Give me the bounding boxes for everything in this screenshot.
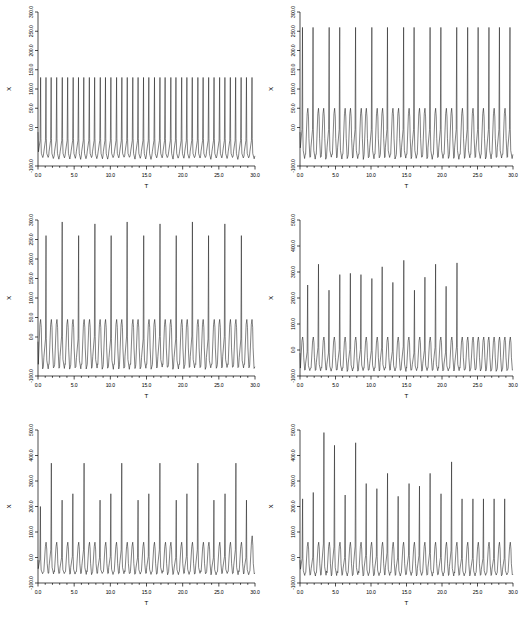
x-tick-label: 0.0: [297, 589, 304, 595]
series-line: [300, 260, 513, 371]
y-tick-label: 200.0: [28, 500, 34, 512]
y-tick-label: 100.0: [28, 526, 34, 538]
panel-middle-right: -100.00.0100.0200.0300.0400.0500.00.05.0…: [262, 208, 523, 418]
y-tick-label: 100.0: [290, 526, 296, 538]
y-tick-label: 500.0: [290, 214, 296, 226]
y-tick-label: -100.0: [290, 369, 296, 383]
x-axis-title: T: [145, 392, 149, 399]
x-tick-label: 25.0: [473, 589, 483, 595]
y-tick-label: 200.0: [28, 253, 34, 265]
x-axis-title: T: [145, 599, 149, 606]
y-tick-label: 150.0: [28, 272, 34, 284]
y-tick-label: 300.0: [28, 214, 34, 226]
x-axis-title: T: [405, 182, 409, 189]
y-tick-label: 0.0: [290, 346, 296, 353]
y-tick-label: 200.0: [28, 44, 34, 56]
panel-bottom-right: -100.00.0100.0200.0300.0400.0500.00.05.0…: [262, 418, 523, 625]
y-tick-label: 50.0: [290, 103, 296, 113]
x-tick-label: 30.0: [508, 172, 518, 178]
x-tick-label: 25.0: [473, 172, 483, 178]
x-tick-label: 0.0: [35, 172, 42, 178]
x-tick-label: 10.0: [106, 172, 116, 178]
y-tick-label: 200.0: [290, 500, 296, 512]
y-tick-label: -100.0: [290, 576, 296, 590]
y-tick-label: 300.0: [290, 266, 296, 278]
x-axis-title: T: [405, 392, 409, 399]
x-tick-label: 0.0: [297, 172, 304, 178]
x-tick-label: 5.0: [332, 382, 339, 388]
x-tick-label: 25.0: [473, 382, 483, 388]
panel-middle-left: -100.00.050.0100.0150.0200.0250.0300.00.…: [0, 208, 265, 418]
x-tick-label: 10.0: [106, 382, 116, 388]
y-tick-label: 150.0: [28, 63, 34, 75]
six-panel-figure: -100.00.050.0100.0150.0200.0250.0300.00.…: [0, 0, 523, 625]
x-tick-label: 5.0: [71, 589, 78, 595]
y-tick-label: 50.0: [28, 103, 34, 113]
y-tick-label: 200.0: [290, 292, 296, 304]
y-tick-label: 250.0: [28, 233, 34, 245]
series-line: [38, 463, 255, 575]
x-tick-label: 20.0: [178, 382, 188, 388]
y-tick-label: 50.0: [28, 313, 34, 323]
x-tick-label: 15.0: [402, 172, 412, 178]
x-tick-label: 20.0: [178, 172, 188, 178]
x-tick-label: 20.0: [437, 589, 447, 595]
x-tick-label: 15.0: [142, 172, 152, 178]
y-tick-label: 150.0: [290, 63, 296, 75]
y-tick-label: -100.0: [28, 159, 34, 173]
y-tick-label: 400.0: [28, 449, 34, 461]
y-tick-label: 250.0: [290, 25, 296, 37]
x-tick-label: 15.0: [402, 382, 412, 388]
series-line: [300, 27, 513, 159]
y-tick-label: 100.0: [290, 318, 296, 330]
y-tick-label: 0.0: [28, 124, 34, 131]
y-tick-label: 400.0: [290, 240, 296, 252]
y-axis-title: X: [267, 87, 274, 91]
x-tick-label: 15.0: [142, 589, 152, 595]
x-tick-label: 30.0: [250, 589, 260, 595]
x-tick-label: 20.0: [178, 589, 188, 595]
x-tick-label: 30.0: [508, 589, 518, 595]
y-tick-label: 0.0: [290, 554, 296, 561]
y-tick-label: 250.0: [28, 25, 34, 37]
y-tick-label: 100.0: [28, 83, 34, 95]
y-tick-label: 300.0: [290, 475, 296, 487]
x-axis-title: T: [405, 599, 409, 606]
x-tick-label: 10.0: [366, 172, 376, 178]
y-tick-label: 0.0: [28, 554, 34, 561]
y-tick-label: 300.0: [28, 475, 34, 487]
x-tick-label: 25.0: [214, 172, 224, 178]
y-tick-label: 500.0: [290, 424, 296, 436]
x-tick-label: 20.0: [437, 172, 447, 178]
x-tick-label: 10.0: [366, 589, 376, 595]
x-tick-label: 15.0: [402, 589, 412, 595]
x-tick-label: 10.0: [366, 382, 376, 388]
x-tick-label: 30.0: [250, 382, 260, 388]
x-tick-label: 15.0: [142, 382, 152, 388]
y-tick-label: 0.0: [290, 124, 296, 131]
y-axis-title: X: [5, 296, 12, 300]
y-tick-label: 0.0: [28, 333, 34, 340]
x-tick-label: 30.0: [250, 172, 260, 178]
y-tick-label: -100.0: [290, 159, 296, 173]
y-tick-label: -100.0: [28, 576, 34, 590]
panel-top-right: -100.00.050.0100.0150.0200.0250.0300.00.…: [262, 0, 523, 208]
y-axis-title: X: [5, 87, 12, 91]
x-tick-label: 5.0: [71, 172, 78, 178]
x-tick-label: 5.0: [332, 589, 339, 595]
y-axis-title: X: [267, 504, 274, 508]
x-axis-title: T: [145, 182, 149, 189]
series-line: [38, 77, 255, 159]
x-tick-label: 0.0: [35, 589, 42, 595]
y-tick-label: 300.0: [28, 6, 34, 18]
x-tick-label: 30.0: [508, 382, 518, 388]
x-tick-label: 25.0: [214, 382, 224, 388]
y-tick-label: 100.0: [290, 83, 296, 95]
panel-top-left: -100.00.050.0100.0150.0200.0250.0300.00.…: [0, 0, 265, 208]
y-tick-label: 100.0: [28, 292, 34, 304]
x-tick-label: 5.0: [332, 172, 339, 178]
series-line: [300, 433, 513, 577]
x-tick-label: 25.0: [214, 589, 224, 595]
y-tick-label: 200.0: [290, 44, 296, 56]
y-axis-title: X: [267, 296, 274, 300]
